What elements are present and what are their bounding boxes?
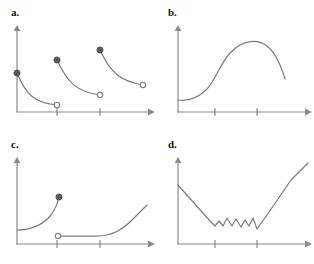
x-axis-arrowhead (148, 241, 155, 248)
figure-root: a. b. (0, 0, 314, 264)
panel-c-plot (0, 132, 157, 264)
y-axis-arrowhead (14, 25, 21, 31)
panel-a-plot (0, 0, 157, 132)
curve-flat-then-rising-branch (58, 205, 147, 236)
open-endpoint-c (55, 233, 60, 238)
open-endpoint-1 (54, 102, 59, 107)
filled-endpoint-1 (14, 70, 20, 76)
y-axis-arrowhead (14, 157, 21, 163)
filled-endpoint-2 (54, 57, 60, 63)
y-axis-arrowhead (175, 157, 182, 163)
curve-branch-2 (57, 60, 100, 95)
panel-d-plot (157, 132, 314, 264)
y-axis-arrowhead (175, 25, 182, 31)
polyline-descent-zigzag-ascent (178, 163, 308, 229)
panel-b-plot (157, 0, 314, 132)
curve-branch-1 (17, 73, 57, 105)
curve-sigmoid-peak (178, 41, 285, 100)
filled-endpoint-c (56, 194, 62, 200)
curve-rising-branch (17, 198, 59, 230)
x-axis-arrowhead (305, 109, 312, 116)
x-axis-arrowhead (305, 241, 312, 248)
open-endpoint-2 (97, 92, 102, 97)
filled-endpoint-3 (97, 47, 103, 53)
panel-c: c. (0, 132, 157, 264)
curve-branch-3 (100, 50, 143, 85)
panel-d: d. (157, 132, 314, 264)
x-axis-arrowhead (148, 109, 155, 116)
open-endpoint-3 (140, 82, 145, 87)
panel-a: a. (0, 0, 157, 132)
panel-b: b. (157, 0, 314, 132)
